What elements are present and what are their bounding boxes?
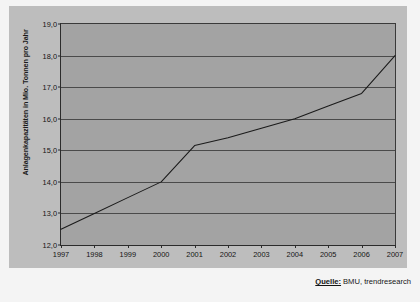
y-axis-tick-label: 15,0 <box>43 146 57 155</box>
x-axis-tick-label: 2002 <box>220 250 236 259</box>
x-axis-tick-label: 2001 <box>186 250 202 259</box>
plot-area: 12,013,014,015,016,017,018,019,0 1997199… <box>60 23 396 246</box>
y-axis-tick-label: 19,0 <box>43 20 57 29</box>
x-axis-tick-mark <box>195 245 196 248</box>
x-axis-tick-label: 1997 <box>53 250 69 259</box>
x-axis-tick-label: 2007 <box>387 250 403 259</box>
x-axis-tick-mark <box>395 245 396 248</box>
series-line-anlagenkapazitaeten <box>61 24 395 245</box>
y-axis-tick-label: 14,0 <box>43 177 57 186</box>
y-axis-tick-label: 12,0 <box>43 241 57 250</box>
x-axis-tick-mark <box>94 245 95 248</box>
x-axis-tick-mark <box>161 245 162 248</box>
x-axis-tick-mark <box>261 245 262 248</box>
source-note: Quelle:BMU, trendresearch <box>0 277 411 286</box>
y-axis-tick-label: 18,0 <box>43 51 57 60</box>
x-axis-tick-mark <box>328 245 329 248</box>
x-axis-tick-mark <box>61 245 62 248</box>
chart-canvas: Anlagenkapazitäten in Mio. Tonnen pro Ja… <box>9 6 407 268</box>
x-axis-tick-mark <box>128 245 129 248</box>
x-axis-tick-label: 2003 <box>253 250 269 259</box>
source-label: Quelle: <box>315 277 341 286</box>
x-axis-tick-mark <box>228 245 229 248</box>
x-axis-tick-label: 2005 <box>320 250 336 259</box>
y-axis-title: Anlagenkapazitäten in Mio. Tonnen pro Ja… <box>21 3 30 203</box>
series-polyline <box>61 56 395 230</box>
x-axis-tick-label: 1998 <box>86 250 102 259</box>
y-axis-tick-label: 17,0 <box>43 83 57 92</box>
x-axis-tick-mark <box>362 245 363 248</box>
x-axis-tick-label: 2004 <box>287 250 303 259</box>
y-axis-tick-label: 16,0 <box>43 114 57 123</box>
x-axis-tick-mark <box>295 245 296 248</box>
y-axis-tick-label: 13,0 <box>43 209 57 218</box>
x-axis-tick-label: 2000 <box>153 250 169 259</box>
chart-figure: Anlagenkapazitäten in Mio. Tonnen pro Ja… <box>0 0 420 302</box>
source-value: BMU, trendresearch <box>343 277 411 286</box>
x-axis-tick-label: 2006 <box>353 250 369 259</box>
x-axis-tick-label: 1999 <box>120 250 136 259</box>
